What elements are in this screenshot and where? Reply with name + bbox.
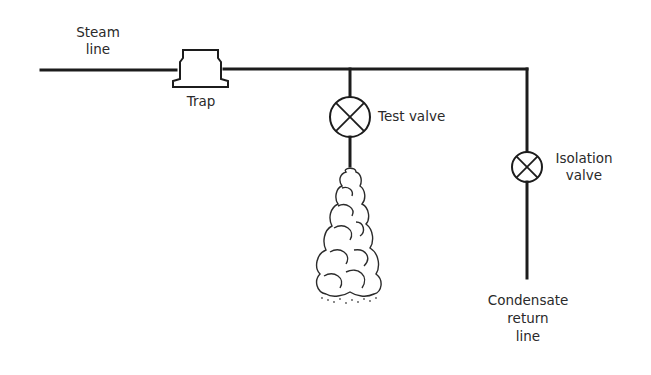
test-valve-label: Test valve <box>378 108 445 125</box>
isolation-valve-label-line1: Isolation <box>548 150 620 167</box>
isolation-valve-label-line2: valve <box>548 167 620 184</box>
condensate-label-line1: Condensate <box>478 291 578 309</box>
steam-line-label-line1: Steam <box>72 24 124 41</box>
test-valve-icon <box>330 97 370 137</box>
steam-line-label: Steam line <box>72 24 124 58</box>
condensate-label-line2: return <box>478 309 578 327</box>
trap-icon <box>173 50 228 87</box>
steam-line-label-line2: line <box>72 41 124 58</box>
trap-label: Trap <box>180 93 222 110</box>
isolation-valve-icon <box>512 152 542 182</box>
condensate-label-line3: line <box>478 327 578 345</box>
isolation-valve-label: Isolation valve <box>548 150 620 184</box>
condensate-return-line-label: Condensate return line <box>478 291 578 345</box>
steam-plume-icon <box>317 168 381 304</box>
